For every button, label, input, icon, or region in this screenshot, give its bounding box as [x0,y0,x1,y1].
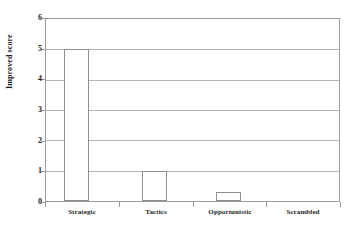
x-tick-mark-4 [340,202,341,207]
x-axis-label-strategic: Strategic [45,208,119,216]
bar-strategic [64,49,89,201]
plot-area [45,18,340,202]
gridline-3 [46,110,339,111]
gridline-5 [46,49,339,50]
gridline-2 [46,140,339,141]
y-tick-label-5: 5 [20,45,42,53]
y-tick-label-3: 3 [20,106,42,114]
y-tick-label-4: 4 [20,75,42,83]
y-tick-label-0: 0 [20,198,42,206]
x-axis-label-scrambled: Scrambled [266,208,340,216]
bar-chart: Improved score 6 5 4 3 2 1 0 Strategic T… [0,0,353,237]
y-tick-label-6: 6 [20,14,42,22]
x-tick-mark-1 [119,202,120,207]
x-axis-label-opportunistic: Opportunistic [193,208,267,216]
x-tick-mark-3 [266,202,267,207]
gridline-4 [46,80,339,81]
y-tick-label-2: 2 [20,137,42,145]
gridline-1 [46,171,339,172]
x-axis-label-tactics: Tactics [119,208,193,216]
bar-opportunistic [216,192,241,201]
bar-tactics [142,171,167,201]
y-axis-title: Improved score [2,14,16,110]
x-tick-mark-2 [193,202,194,207]
y-tick-label-1: 1 [20,167,42,175]
x-tick-mark-0 [45,202,46,207]
